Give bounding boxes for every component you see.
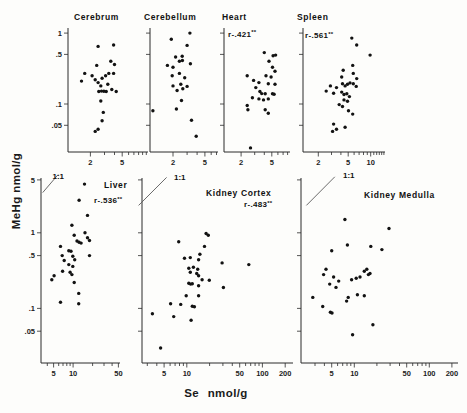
y-tick-label: .5 <box>29 251 35 260</box>
x-tick-label: 10 <box>367 158 375 167</box>
panel-liver: 51.5.1.05510501:1Liverr-.536** <box>25 172 128 379</box>
data-point <box>171 66 174 69</box>
x-tick-label: 2 <box>239 158 243 167</box>
data-point <box>191 282 194 285</box>
data-point <box>246 108 249 111</box>
panel-title: Kidney Medulla <box>364 190 435 200</box>
data-point <box>109 60 112 63</box>
data-point <box>73 258 76 261</box>
data-point <box>80 79 83 82</box>
data-point <box>346 243 349 246</box>
data-point <box>171 74 174 77</box>
data-point <box>71 255 74 258</box>
data-point <box>67 263 70 266</box>
data-point <box>355 77 358 80</box>
y-tick-label: .1 <box>29 304 35 313</box>
data-point <box>267 97 270 100</box>
x-tick-label: 2 <box>88 158 92 167</box>
x-tick-label: 50 <box>114 369 122 378</box>
data-point <box>94 130 97 133</box>
data-point <box>342 69 345 72</box>
data-point <box>352 82 355 85</box>
data-point <box>350 36 353 39</box>
x-axis-label: Se nmol/g <box>0 387 432 399</box>
data-point <box>264 74 267 77</box>
correlation-label: r-.421** <box>228 29 257 39</box>
one-to-one-label: 1:1 <box>343 171 355 180</box>
data-point <box>102 111 105 114</box>
data-point <box>172 315 175 318</box>
data-point <box>335 86 338 89</box>
panel-title: Kidney Cortex <box>206 188 271 198</box>
x-tick-label: 5 <box>346 158 350 167</box>
data-point <box>96 45 99 48</box>
y-tick-label: .05 <box>25 327 35 336</box>
data-point <box>179 303 182 306</box>
data-point <box>196 268 199 271</box>
data-point <box>192 266 195 269</box>
data-point <box>113 63 116 66</box>
data-point <box>321 305 324 308</box>
data-point <box>208 279 211 282</box>
y-tick-label: 1 <box>58 29 62 38</box>
data-point <box>188 31 191 34</box>
data-point <box>77 292 80 295</box>
panel-title: Cerebrum <box>74 12 119 22</box>
y-tick-label: .5 <box>56 50 62 59</box>
correlation-label: r-.561** <box>305 31 334 41</box>
panel-cerebrum: 1.5.1.0525Cerebrum <box>52 12 148 167</box>
data-point <box>171 84 174 87</box>
data-point <box>189 62 192 65</box>
one-to-one-line <box>139 177 167 205</box>
data-point <box>351 333 354 336</box>
correlation-label: r-.483** <box>244 200 273 210</box>
data-point <box>342 98 345 101</box>
data-point <box>115 90 118 93</box>
y-tick-label: .1 <box>56 100 62 109</box>
data-point <box>345 299 348 302</box>
data-point <box>179 83 182 86</box>
y-tick-label: .05 <box>52 121 62 130</box>
data-point <box>197 274 200 277</box>
data-point <box>70 224 73 227</box>
data-point <box>185 85 188 88</box>
data-point <box>90 74 93 77</box>
data-point <box>86 214 89 217</box>
data-point <box>332 92 335 95</box>
data-point <box>264 92 267 95</box>
data-point <box>73 281 76 284</box>
data-point <box>267 82 270 85</box>
x-tick-label: 50 <box>403 369 411 378</box>
data-point <box>267 112 270 115</box>
data-point <box>190 119 193 122</box>
y-tick-label: 5 <box>31 176 35 185</box>
data-point <box>345 92 348 95</box>
data-point <box>356 293 359 296</box>
data-point <box>348 95 351 98</box>
x-tick-label: 5 <box>330 369 334 378</box>
axes <box>150 28 218 152</box>
x-tick-label: 5 <box>270 158 274 167</box>
data-point <box>380 248 383 251</box>
data-point <box>181 87 184 90</box>
data-point <box>220 261 223 264</box>
data-point <box>368 272 371 275</box>
scatter-plot-grid: 1.5.1.0525Cerebrum25Cerebellum25Heartr-.… <box>0 0 467 413</box>
data-point <box>180 99 183 102</box>
data-point <box>332 122 335 125</box>
data-point <box>322 273 325 276</box>
data-point <box>273 70 276 73</box>
data-point <box>181 55 184 58</box>
data-point <box>112 72 115 75</box>
data-point <box>88 239 91 242</box>
data-point <box>106 83 109 86</box>
data-point <box>197 284 200 287</box>
data-point <box>185 44 188 47</box>
data-point <box>86 236 89 239</box>
data-point <box>195 135 198 138</box>
data-point <box>271 66 274 69</box>
data-point <box>200 278 203 281</box>
axes <box>224 28 290 152</box>
axes <box>301 178 458 363</box>
data-point <box>387 227 390 230</box>
